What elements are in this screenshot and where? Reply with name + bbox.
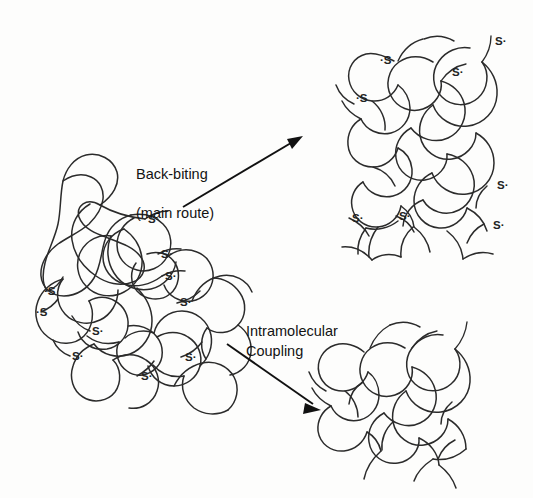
radical-label: ·S — [44, 285, 56, 297]
radical-label: S· — [399, 210, 411, 222]
reactant-polymer-coil: S·S·S··S·SS·S·S·S·S· — [36, 154, 252, 414]
route-top-label-line1: Back-biting — [136, 166, 208, 182]
radical-label: S· — [161, 248, 173, 260]
route-top-label-line2: (main route) — [136, 205, 214, 221]
radical-label: S· — [141, 370, 153, 382]
radical-label: S· — [180, 296, 192, 308]
radical-label: S· — [72, 350, 84, 362]
route-bottom-label-line1: Intramolecular — [246, 323, 338, 339]
radical-label: ·S — [356, 92, 368, 104]
radical-label: S· — [92, 325, 104, 337]
radical-label: S· — [352, 212, 364, 224]
product-top-polymer-coil: ·SS·S··SS·S·S·S· — [336, 35, 509, 260]
radical-label: S· — [495, 35, 507, 47]
radical-label: S· — [185, 351, 197, 363]
route-bottom-label-line2: Coupling — [246, 343, 303, 359]
radical-label: ·S — [380, 54, 392, 66]
radical-label: S· — [497, 179, 509, 191]
radical-label: S· — [493, 219, 505, 231]
radical-label: ·S — [36, 306, 48, 318]
radical-label: S· — [452, 66, 464, 78]
radical-label: S· — [165, 270, 177, 282]
product-bottom-polymer-globule — [309, 322, 470, 488]
reaction-scheme-figure: S·S·S··S·SS·S·S·S·S· Back-biting (main r… — [0, 0, 533, 498]
